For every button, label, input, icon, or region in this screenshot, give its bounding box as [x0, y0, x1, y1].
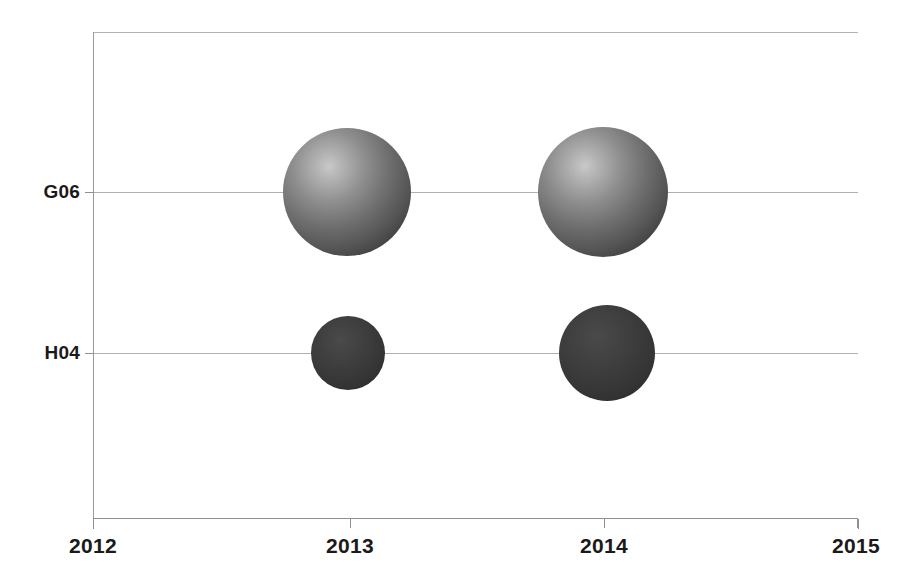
- bubble-g06-2014[interactable]: [538, 127, 668, 257]
- gridline-h04: [93, 353, 858, 354]
- x-tick-2013: [350, 519, 351, 528]
- bubble-h04-2013[interactable]: [311, 316, 385, 390]
- x-axis-line: [93, 518, 858, 519]
- x-axis-label-2012: 2012: [69, 534, 117, 558]
- bubble-g06-2013[interactable]: [283, 128, 411, 256]
- y-axis-label-g06: G06: [43, 181, 80, 203]
- y-axis-label-h04: H04: [45, 342, 80, 364]
- bubble-h04-2014[interactable]: [559, 305, 655, 401]
- y-axis-line: [93, 32, 94, 519]
- gridline-g06: [93, 192, 858, 193]
- x-axis-labels: 2012 2013 2014 2015: [0, 534, 902, 568]
- x-axis-right-foot: [858, 519, 859, 529]
- x-axis-label-2014: 2014: [580, 534, 628, 558]
- bubble-chart: G06 H04 2012 2013 2014 2015: [0, 0, 902, 588]
- plot-top-border: [93, 32, 858, 33]
- y-tick-g06: [85, 192, 94, 193]
- x-axis-label-2013: 2013: [326, 534, 374, 558]
- x-axis-label-2015: 2015: [832, 534, 880, 558]
- x-tick-2014: [604, 519, 605, 528]
- y-axis-foot: [93, 519, 94, 529]
- y-axis-labels: G06 H04: [0, 32, 80, 519]
- plot-area: [93, 32, 858, 519]
- y-tick-h04: [85, 353, 94, 354]
